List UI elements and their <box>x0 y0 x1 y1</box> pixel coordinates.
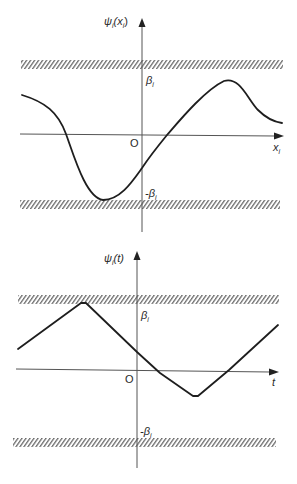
y-axis-arrow-icon <box>134 251 141 260</box>
subscript-i: i <box>112 22 114 29</box>
subscript-i: i <box>112 259 114 266</box>
origin-symbol: O <box>125 373 134 385</box>
x-axis <box>20 134 276 136</box>
top-x-axis-label: xi <box>273 142 280 153</box>
argument: (t) <box>114 252 124 264</box>
top-lower-bound-label: -βi <box>145 188 157 199</box>
x-axis-arrow-icon <box>274 133 284 140</box>
psi-x-curve <box>22 80 282 200</box>
lower-bound-hatch-band <box>20 200 280 209</box>
subscript-i: i <box>150 432 152 439</box>
top-y-axis-label: ψi(xi) <box>104 16 128 27</box>
neg-beta-symbol: -β <box>145 187 155 199</box>
subscript-i: i <box>279 148 281 155</box>
x-axis <box>16 369 270 372</box>
psi-symbol: ψ <box>104 15 112 27</box>
subscript-i: i <box>152 81 154 88</box>
t-symbol: t <box>272 376 275 388</box>
neg-beta-symbol: -β <box>140 425 150 437</box>
upper-bound-hatch-band <box>21 60 283 69</box>
bottom-lower-bound-label: -βi <box>140 426 152 437</box>
x-symbol: x <box>273 141 279 153</box>
subscript-i: i <box>147 316 149 323</box>
bottom-origin-label: O <box>125 374 134 385</box>
x-axis-arrow-icon <box>269 369 279 376</box>
y-axis-arrow-icon <box>139 18 146 27</box>
top-origin-label: O <box>130 138 139 149</box>
diagram-canvas <box>0 0 297 484</box>
bottom-x-axis-label: t <box>272 377 275 388</box>
top-upper-bound-label: βi <box>146 75 154 86</box>
upper-bound-hatch-band <box>18 295 279 304</box>
bottom-upper-bound-label: βi <box>141 310 149 321</box>
origin-symbol: O <box>130 137 139 149</box>
lower-bound-hatch-band <box>13 438 276 447</box>
bottom-y-axis-label: ψi(t) <box>104 253 124 264</box>
argument-close: ) <box>124 15 128 27</box>
argument-open: (x <box>114 15 123 27</box>
subscript-i: i <box>155 194 157 201</box>
psi-symbol: ψ <box>104 252 112 264</box>
top-chart <box>20 18 284 232</box>
